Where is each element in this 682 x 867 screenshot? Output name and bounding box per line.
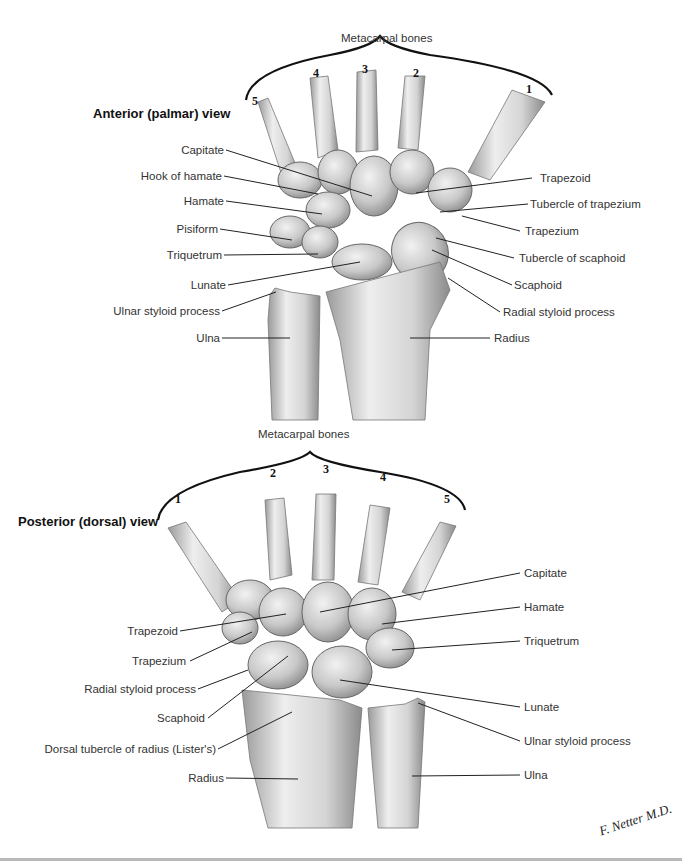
anterior-label-trapezoid: Trapezoid (540, 171, 591, 185)
anterior-label-hamate: Hamate (184, 194, 224, 208)
anterior-metacarpal-number: 4 (313, 66, 319, 81)
metacarpal-bracket-posterior (158, 452, 465, 520)
wrist-bones-illustration: Metacarpal bones Anterior (palmar) view … (0, 0, 682, 867)
posterior-label-radial-styloid-process: Radial styloid process (84, 682, 196, 696)
posterior-label-trapezium: Trapezium (132, 654, 186, 668)
posterior-metacarpal-number: 5 (444, 492, 450, 507)
anterior-metacarpal-number: 5 (252, 94, 258, 109)
anterior-label-ulnar-styloid-process: Ulnar styloid process (113, 304, 220, 318)
posterior-label-ulnar-styloid-process: Ulnar styloid process (524, 734, 631, 748)
anterior-label-capitate: Capitate (181, 143, 224, 157)
anterior-label-tubercle-of-scaphoid: Tubercle of scaphoid (519, 251, 625, 265)
anterior-view-title: Anterior (palmar) view (93, 106, 230, 121)
anterior-label-trapezium: Trapezium (525, 224, 579, 238)
anterior-label-pisiform: Pisiform (176, 222, 218, 236)
posterior-label-ulna: Ulna (524, 768, 548, 782)
posterior-label-scaphoid: Scaphoid (157, 711, 205, 725)
bottom-divider (0, 858, 682, 861)
anterior-metacarpal-number: 1 (526, 82, 532, 97)
posterior-metacarpal-bones-label: Metacarpal bones (258, 428, 349, 440)
anterior-metacarpal-bones-label: Metacarpal bones (341, 32, 432, 44)
posterior-label-lunate: Lunate (524, 700, 559, 714)
posterior-label-dorsal-tubercle-of-radius: Dorsal tubercle of radius (Lister's) (44, 742, 216, 756)
posterior-label-trapezoid: Trapezoid (127, 624, 178, 638)
anterior-label-hook-of-hamate: Hook of hamate (141, 169, 222, 183)
anterior-label-triquetrum: Triquetrum (167, 248, 222, 262)
posterior-view-title: Posterior (dorsal) view (18, 514, 158, 529)
anterior-view-art (220, 36, 552, 420)
anterior-label-radial-styloid-process: Radial styloid process (503, 305, 615, 319)
anterior-label-ulna: Ulna (196, 331, 220, 345)
anterior-metacarpal-number: 2 (413, 66, 419, 81)
posterior-label-radius: Radius (188, 771, 224, 785)
anterior-label-lunate: Lunate (191, 278, 226, 292)
anterior-label-tubercle-of-trapezium: Tubercle of trapezium (530, 197, 641, 211)
posterior-metacarpal-number: 1 (175, 492, 181, 507)
posterior-metacarpal-number: 4 (380, 470, 386, 485)
posterior-metacarpal-number: 3 (323, 462, 329, 477)
posterior-label-hamate: Hamate (524, 600, 564, 614)
metacarpal-bracket-anterior (246, 36, 552, 100)
anterior-label-scaphoid: Scaphoid (514, 278, 562, 292)
posterior-label-triquetrum: Triquetrum (524, 634, 579, 648)
anterior-label-radius: Radius (494, 331, 530, 345)
anterior-metacarpal-number: 3 (362, 62, 368, 77)
posterior-label-capitate: Capitate (524, 566, 567, 580)
posterior-metacarpal-number: 2 (270, 466, 276, 481)
